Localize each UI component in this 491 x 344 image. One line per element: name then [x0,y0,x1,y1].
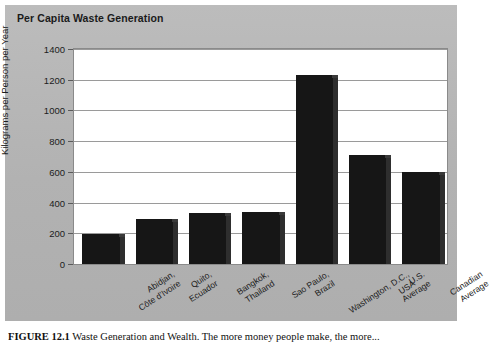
bar-side [226,216,231,264]
bar-side [386,158,391,264]
chart-panel: Per Capita Waste Generation Kilograms pe… [5,5,457,321]
y-tick-label: 1400 [7,44,65,55]
x-tick-label: Abidjan,Côte d'Ivoire [130,269,182,313]
bar-top-face [119,234,125,237]
y-tick-label: 800 [7,136,65,147]
bar-top-face [279,212,285,215]
chart-title: Per Capita Waste Generation [17,12,163,24]
bar-top-face [385,155,391,158]
bar-side [120,237,125,264]
y-tick-mark [68,172,73,173]
bar-series [74,49,447,264]
figure-caption: FIGURE 12.1 Waste Generation and Wealth.… [8,331,458,342]
bar-side [280,215,285,264]
bar-front [349,155,386,264]
y-tick-mark [68,264,73,265]
bar-front [136,219,173,264]
bar-front [82,234,119,264]
bar [189,213,226,264]
y-tick-label: 1000 [7,105,65,116]
bar-top-face [225,213,231,216]
bar-side [173,222,178,264]
bar [296,75,333,264]
y-tick-label: 400 [7,197,65,208]
y-tick-label: 600 [7,166,65,177]
y-tick-mark [68,80,73,81]
y-tick-mark [68,141,73,142]
bar-side [440,175,445,264]
x-tick-label: Sao Paulo,Brazil [289,269,336,310]
bar [349,155,386,264]
bar-front [242,212,279,264]
caption-label: FIGURE 12.1 [8,331,70,342]
bar-top-face [439,172,445,175]
bar [402,172,439,264]
bar-top-face [332,75,338,78]
y-tick-label: 1200 [7,74,65,85]
bar-front [402,172,439,264]
y-tick-mark [68,203,73,204]
y-tick-label: 200 [7,228,65,239]
y-tick-mark [68,233,73,234]
caption-text: Waste Generation and Wealth. The more mo… [72,331,379,342]
x-tick-label: Quito,Ecuador [181,269,219,304]
y-tick-mark [68,49,73,50]
bar [136,219,173,264]
x-tick-label: Bangkok,Thailand [235,269,276,306]
x-axis-labels: Abidjan,Côte d'IvoireQuito,EcuadorBangko… [73,267,448,325]
bar-side [333,78,338,264]
bar [242,212,279,264]
y-tick-label: 0 [7,259,65,270]
bar-front [189,213,226,264]
y-tick-mark [68,110,73,111]
bar-top-face [172,219,178,222]
bar [82,234,119,264]
bar-front [296,75,333,264]
